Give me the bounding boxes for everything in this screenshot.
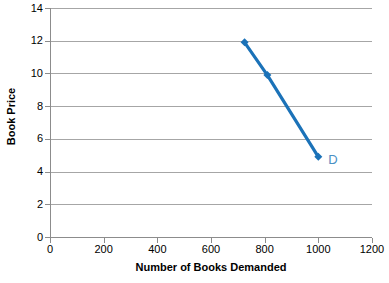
series-label-d: D [328,153,337,166]
demand-line [245,42,319,157]
